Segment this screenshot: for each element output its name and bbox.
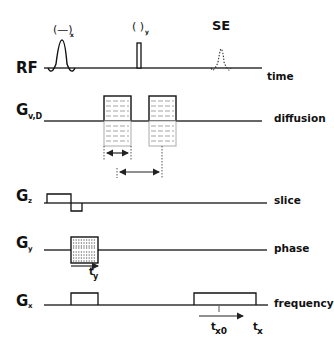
- readout-prephaser-gradient: [71, 293, 98, 305]
- diffusion-gradient-lobe-1: [104, 96, 131, 146]
- gx-axis-sub: x: [28, 302, 33, 310]
- slice-label: slice: [274, 194, 301, 206]
- diffusion-gradient-lobe-2: [149, 96, 176, 146]
- excitation-pulse-sub: x: [70, 31, 74, 38]
- rf-row: RF (—) x ( ) y SE time: [16, 18, 294, 82]
- tx0-sub: x0: [215, 326, 227, 336]
- gy-axis-label: G: [16, 234, 28, 252]
- pulse-sequence-diagram: RF (—) x ( ) y SE time G v,D: [0, 0, 334, 352]
- slice-row: G z slice: [16, 187, 301, 211]
- timing-guides: [104, 146, 162, 178]
- gz-axis-sub: z: [28, 197, 32, 205]
- gx-axis-label: G: [16, 292, 28, 310]
- refocusing-pulse-label: ( ): [132, 20, 144, 33]
- gvd-axis-label: G: [16, 101, 28, 119]
- spin-echo-label: SE: [212, 18, 230, 33]
- diffusion-label: diffusion: [274, 112, 326, 124]
- phase-encode-gradient: [71, 237, 98, 263]
- rf-axis-label: RF: [16, 59, 38, 77]
- frequency-row: G x t x0 t x frequency: [16, 292, 334, 336]
- diffusion-row: G v,D: [16, 96, 326, 178]
- readout-gradient: [194, 293, 256, 305]
- gvd-axis-sub: v,D: [28, 112, 43, 121]
- phase-label: phase: [274, 242, 309, 254]
- frequency-label: frequency: [274, 297, 334, 309]
- phase-row: G y t y phase: [16, 234, 309, 281]
- refocusing-pulse-sub: y: [145, 28, 149, 36]
- time-label: time: [267, 70, 294, 82]
- gz-axis-label: G: [16, 187, 28, 205]
- excitation-pulse-icon: [48, 40, 75, 71]
- refocusing-pulse-icon: [137, 43, 141, 68]
- gy-axis-sub: y: [28, 245, 33, 253]
- ty-sub: y: [93, 272, 99, 281]
- spin-echo-icon: [211, 49, 231, 70]
- tx-sub: x: [257, 326, 263, 336]
